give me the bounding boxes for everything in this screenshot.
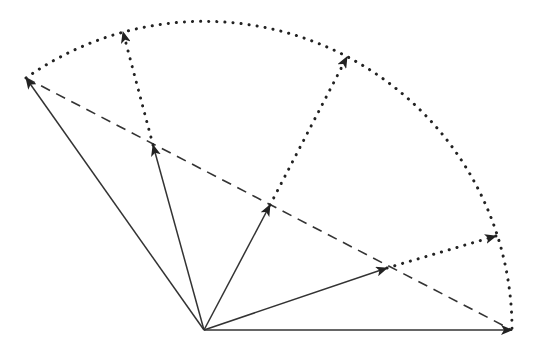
lerp-vector-1: [153, 145, 204, 330]
projection-1: [123, 32, 153, 145]
projection-3: [387, 236, 496, 268]
start-vector: [26, 78, 204, 330]
slerp-arc: [26, 21, 512, 330]
projection-2: [270, 57, 347, 205]
projection-1-arrowhead-icon: [123, 32, 127, 47]
projections: [123, 32, 496, 268]
projection-arrowheads: [123, 32, 496, 240]
interpolation-diagram: [0, 0, 539, 345]
projection-2-arrowhead-icon: [340, 57, 347, 70]
